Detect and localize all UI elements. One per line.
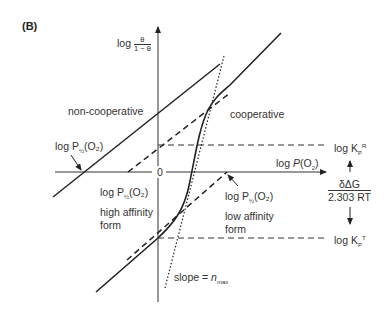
high-affinity-label: high affinity xyxy=(100,206,153,218)
half-saturation-high-label: log P½(O₂) xyxy=(100,186,148,203)
low-affinity-form-label: form xyxy=(225,223,246,235)
non-cooperative-line xyxy=(53,64,220,197)
cooperative-curve xyxy=(96,33,281,292)
y-axis-label: log θ1 − θ xyxy=(117,36,151,53)
slope-label: slope = nmax xyxy=(174,271,228,288)
energy-difference-fraction: δΔG 2.303 RT xyxy=(328,178,371,203)
high-affinity-form-label: form xyxy=(100,219,121,231)
low-affinity-label: low affinity xyxy=(225,210,274,222)
non-cooperative-label: non-cooperative xyxy=(68,105,143,117)
origin-label: 0 xyxy=(155,166,165,178)
log-kr-label: log KPR xyxy=(334,140,366,159)
x-axis-label: log P(O2) xyxy=(276,157,318,174)
log-kt-label: log KPT xyxy=(334,232,366,251)
half-saturation-left-label: log P½(O₂) xyxy=(55,140,103,157)
cooperative-label: cooperative xyxy=(230,108,284,120)
half-saturation-low-label: log P½(O₂) xyxy=(225,190,273,207)
